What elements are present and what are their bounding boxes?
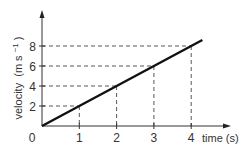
y-tick-label: 4 — [29, 80, 36, 94]
y-axis-label: velocity (m s −1 ) — [8, 36, 24, 119]
x-tick-label: 1 — [76, 131, 83, 145]
velocity-time-graph: 12342468 0 time (s) velocity (m s −1 ) — [0, 0, 242, 154]
tick-labels: 12342468 — [29, 40, 195, 146]
x-tick-label: 4 — [188, 131, 195, 145]
x-tick-label: 3 — [151, 131, 158, 145]
y-tick-label: 8 — [29, 40, 36, 54]
y-tick-label: 6 — [29, 60, 36, 74]
x-axis-label: time (s) — [202, 132, 239, 144]
y-axis-label-close: ) — [12, 36, 24, 40]
x-axis-arrow-icon — [223, 124, 231, 129]
x-tick-label: 2 — [113, 131, 120, 145]
y-axis-label-main: velocity — [12, 82, 24, 119]
y-axis-arrow-icon — [40, 10, 45, 18]
origin-label: 0 — [29, 131, 36, 145]
y-axis-label-sup: −1 — [11, 43, 20, 53]
y-axis-label-unit: (m s — [12, 55, 24, 77]
y-tick-label: 2 — [29, 100, 36, 114]
svg-text:velocity (m s −1: velocity (m s −1 ) — [8, 36, 24, 119]
velocity-line — [42, 40, 202, 126]
